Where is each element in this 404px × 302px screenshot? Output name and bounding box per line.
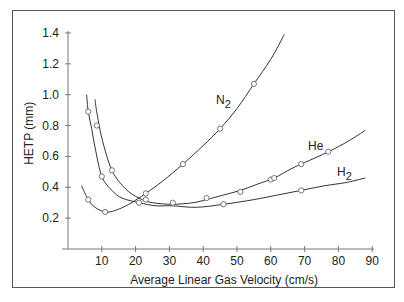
y-tick-label: 0.2 [42, 211, 59, 225]
data-marker-n2 [218, 126, 223, 131]
y-tick-label: 0.6 [42, 149, 59, 163]
x-tick-label: 40 [197, 254, 211, 268]
y-tick-label: 1.0 [42, 88, 59, 102]
data-marker-h2 [170, 200, 175, 205]
data-marker-h2 [299, 188, 304, 193]
data-marker-h2 [136, 200, 141, 205]
series-curve-he [95, 99, 365, 204]
data-marker-he [94, 123, 99, 128]
x-tick-label: 60 [264, 254, 278, 268]
x-tick-label: 90 [366, 254, 380, 268]
data-marker-n2 [103, 209, 108, 214]
data-marker-h2 [99, 174, 104, 179]
data-marker-he [238, 189, 243, 194]
x-tick-label: 80 [332, 254, 346, 268]
x-tick-label: 20 [129, 254, 143, 268]
y-tick-label: 1.2 [42, 57, 59, 71]
data-marker-n2 [86, 197, 91, 202]
x-tick-label: 30 [163, 254, 177, 268]
y-axis-title: HETP (mm) [22, 102, 36, 165]
data-marker-he [326, 149, 331, 154]
data-marker-he [299, 162, 304, 167]
x-tick-label: 10 [95, 254, 109, 268]
data-marker-he [272, 175, 277, 180]
series-label-he: He [308, 139, 324, 153]
hetp-chart: 0.20.40.60.81.01.21.4102030405060708090A… [0, 0, 404, 302]
data-marker-h2 [204, 195, 209, 200]
data-marker-he [143, 197, 148, 202]
x-tick-label: 50 [230, 254, 244, 268]
series-label-n2: N2 [216, 93, 231, 110]
data-marker-n2 [180, 162, 185, 167]
data-marker-h2 [221, 202, 226, 207]
y-tick-label: 1.4 [42, 26, 59, 40]
x-axis-title: Average Linear Gas Velocity (cm/s) [130, 273, 318, 287]
data-marker-he [109, 168, 114, 173]
data-marker-n2 [143, 191, 148, 196]
y-tick-label: 0.4 [42, 180, 59, 194]
data-marker-h2 [86, 109, 91, 114]
x-tick-label: 70 [298, 254, 312, 268]
y-tick-label: 0.8 [42, 119, 59, 133]
data-marker-n2 [251, 81, 256, 86]
series-label-h2: H2 [337, 165, 352, 182]
series-curve-h2 [87, 95, 366, 208]
